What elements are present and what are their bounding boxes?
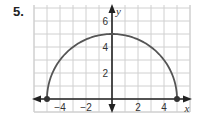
endpoint-dot (44, 96, 50, 102)
x-axis-left-arrow-icon (32, 96, 41, 103)
y-tick-label: 6 (102, 16, 108, 27)
endpoint-dot (174, 96, 180, 102)
y-tick-label: 4 (102, 42, 108, 53)
y-axis-label: y (115, 5, 121, 17)
x-axis-label: x (184, 102, 190, 114)
semicircle-graph: −4−224246xy (0, 0, 198, 115)
x-tick-label: −4 (54, 102, 66, 113)
y-tick-label: 2 (102, 68, 108, 79)
x-tick-label: 2 (135, 102, 141, 113)
x-tick-label: −2 (80, 102, 92, 113)
axes (32, 4, 192, 113)
x-tick-label: 4 (161, 102, 167, 113)
